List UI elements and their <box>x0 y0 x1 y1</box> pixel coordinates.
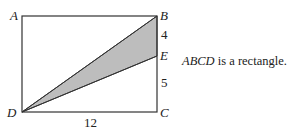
caption-text: is a rectangle. <box>215 54 287 68</box>
length-dc: 12 <box>84 116 97 129</box>
point-label-c: C <box>160 106 169 119</box>
caption-subject: ABCD <box>182 54 215 68</box>
length-be: 4 <box>161 28 168 41</box>
caption: ABCD is a rectangle. <box>182 54 287 69</box>
point-label-a: A <box>10 9 18 22</box>
point-label-d: D <box>7 106 16 119</box>
point-label-e: E <box>160 49 168 62</box>
length-ec: 5 <box>161 76 168 89</box>
point-label-b: B <box>160 9 168 22</box>
